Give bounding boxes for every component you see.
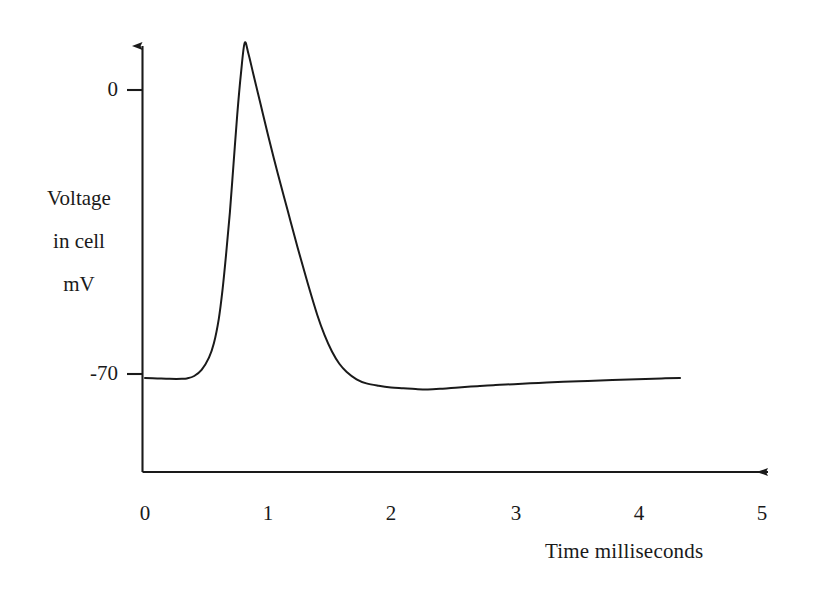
x-axis-title: Time milliseconds <box>545 541 703 562</box>
y-axis-title: Voltage in cell mV <box>20 186 138 297</box>
action-potential-figure: 0 -70 Voltage in cell mV 0 1 2 3 4 5 Tim… <box>0 0 817 599</box>
x-tick-label-2: 2 <box>371 503 411 524</box>
x-tick-label-3: 3 <box>496 503 536 524</box>
x-tick-label-1: 1 <box>248 503 288 524</box>
x-tick-label-0: 0 <box>125 503 165 524</box>
y-tick-label-minus70: -70 <box>38 363 118 384</box>
y-axis-title-line-3: mV <box>20 272 138 297</box>
y-tick-label-0: 0 <box>38 79 118 100</box>
y-axis-title-line-1: Voltage <box>20 186 138 211</box>
x-tick-label-5: 5 <box>742 503 782 524</box>
x-tick-label-4: 4 <box>619 503 659 524</box>
action-potential-trace <box>145 42 680 389</box>
y-axis-title-line-2: in cell <box>20 229 138 254</box>
